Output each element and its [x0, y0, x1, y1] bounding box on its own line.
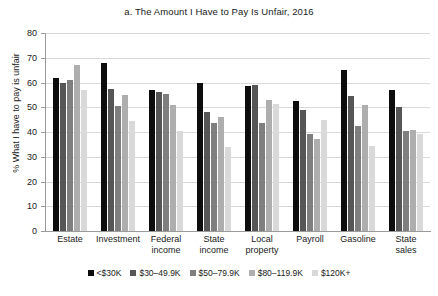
bar[interactable]	[369, 146, 375, 231]
legend-item[interactable]: $120K+	[312, 268, 351, 278]
legend-label: <$30K	[97, 268, 122, 278]
y-tick-label: 80	[0, 28, 37, 38]
bar[interactable]	[177, 131, 183, 231]
bar[interactable]	[300, 110, 306, 231]
bar-group	[149, 33, 183, 231]
bar[interactable]	[115, 106, 121, 231]
bar-group	[197, 33, 231, 231]
legend-item[interactable]: $30–49.9K	[130, 268, 180, 278]
bar[interactable]	[211, 123, 217, 231]
x-tick-label-line: sales	[382, 245, 430, 256]
x-tick-label: Estate	[46, 234, 94, 245]
bar-group	[341, 33, 375, 231]
bar[interactable]	[355, 126, 361, 231]
x-tick-label: Investment	[94, 234, 142, 245]
chart-container: a. The Amount I Have to Pay Is Unfair, 2…	[0, 0, 438, 296]
bar[interactable]	[74, 65, 80, 231]
bar[interactable]	[163, 94, 169, 231]
chart-title: a. The Amount I Have to Pay Is Unfair, 2…	[0, 6, 438, 17]
bar[interactable]	[293, 101, 299, 231]
bar[interactable]	[245, 86, 251, 231]
legend-label: $30–49.9K	[139, 268, 180, 278]
bar[interactable]	[403, 131, 409, 231]
bar[interactable]	[81, 90, 87, 231]
x-tick-label-line: State	[382, 234, 430, 245]
bar[interactable]	[122, 95, 128, 231]
bar[interactable]	[149, 90, 155, 231]
legend-item[interactable]: $50–79.9K	[190, 268, 240, 278]
x-tick-label-line: Gasoline	[334, 234, 382, 245]
x-tick-label-line: income	[190, 245, 238, 256]
bar[interactable]	[417, 134, 423, 231]
bar-group	[245, 33, 279, 231]
x-tick-label-line: Local	[238, 234, 286, 245]
bar[interactable]	[307, 134, 313, 231]
legend-swatch-icon	[249, 270, 255, 276]
y-tick-label: 70	[0, 53, 37, 63]
bar[interactable]	[67, 80, 73, 231]
bar-group	[53, 33, 87, 231]
bar[interactable]	[259, 123, 265, 231]
bar-group	[101, 33, 135, 231]
y-tick-label: 50	[0, 102, 37, 112]
bar[interactable]	[321, 120, 327, 231]
x-tick-label: Localproperty	[238, 234, 286, 255]
legend-label: $120K+	[321, 268, 351, 278]
bar[interactable]	[170, 105, 176, 231]
bar[interactable]	[348, 96, 354, 231]
x-tick-label: Payroll	[286, 234, 334, 245]
y-tick-label: 40	[0, 127, 37, 137]
plot-area	[46, 33, 430, 231]
bar[interactable]	[273, 104, 279, 231]
chart-legend: <$30K$30–49.9K$50–79.9K$80–119.9K$120K+	[0, 268, 438, 278]
legend-item[interactable]: <$30K	[88, 268, 122, 278]
y-tick-label: 20	[0, 177, 37, 187]
x-axis-line	[45, 231, 431, 232]
bar[interactable]	[218, 117, 224, 231]
y-tick-label: 30	[0, 152, 37, 162]
bar[interactable]	[156, 92, 162, 231]
bar[interactable]	[53, 78, 59, 231]
y-tick-label: 0	[0, 226, 37, 236]
bar[interactable]	[266, 100, 272, 231]
bar[interactable]	[204, 112, 210, 231]
legend-label: $50–79.9K	[199, 268, 240, 278]
bar[interactable]	[197, 83, 203, 232]
y-tick-label: 60	[0, 78, 37, 88]
x-tick-label: Statesales	[382, 234, 430, 255]
x-tick-label: Gasoline	[334, 234, 382, 245]
bar[interactable]	[362, 105, 368, 231]
legend-swatch-icon	[312, 270, 318, 276]
bar[interactable]	[60, 83, 66, 232]
x-tick-label-line: income	[142, 245, 190, 256]
bar[interactable]	[108, 89, 114, 231]
bar[interactable]	[252, 85, 258, 231]
x-tick-label-line: Federal	[142, 234, 190, 245]
bar-group	[293, 33, 327, 231]
x-tick-label-line: Estate	[46, 234, 94, 245]
legend-label: $80–119.9K	[258, 268, 303, 278]
legend-swatch-icon	[130, 270, 136, 276]
bar[interactable]	[314, 139, 320, 231]
legend-item[interactable]: $80–119.9K	[249, 268, 303, 278]
x-tick-label: Federalincome	[142, 234, 190, 255]
bar[interactable]	[389, 90, 395, 231]
x-tick-label-line: Investment	[94, 234, 142, 245]
bar-group	[389, 33, 423, 231]
x-tick-label-line: property	[238, 245, 286, 256]
bar[interactable]	[396, 107, 402, 231]
y-tick-label: 10	[0, 201, 37, 211]
bar[interactable]	[225, 147, 231, 231]
x-tick-label: Stateincome	[190, 234, 238, 255]
bar[interactable]	[101, 63, 107, 231]
legend-swatch-icon	[88, 270, 94, 276]
x-tick-label-line: State	[190, 234, 238, 245]
bar[interactable]	[410, 130, 416, 231]
legend-swatch-icon	[190, 270, 196, 276]
bar[interactable]	[129, 121, 135, 231]
bar[interactable]	[341, 70, 347, 231]
x-tick-label-line: Payroll	[286, 234, 334, 245]
